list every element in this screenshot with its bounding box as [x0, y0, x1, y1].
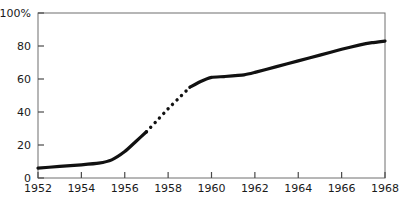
y-axis-tick-label: 40 — [17, 106, 31, 119]
x-axis-tick-label: 1960 — [198, 182, 226, 195]
x-axis-tick-labels: 195219541956195819601962196419661968 — [24, 182, 399, 195]
y-axis-tick-labels: 020406080100% — [0, 7, 31, 185]
x-axis-tick-label: 1962 — [241, 182, 269, 195]
x-axis-tick-label: 1958 — [154, 182, 182, 195]
x-axis-tick-label: 1954 — [67, 182, 95, 195]
chart-figure: 020406080100% 19521954195619581960196219… — [0, 0, 406, 213]
x-axis-tick-label: 1952 — [24, 182, 52, 195]
y-axis-tick-label: 60 — [17, 73, 31, 86]
x-axis-tick-label: 1956 — [111, 182, 139, 195]
y-axis-tick-label: 20 — [17, 139, 31, 152]
y-axis-tick-label: 80 — [17, 40, 31, 53]
y-axis-tick-label: 100% — [0, 7, 31, 20]
x-axis-tick-label: 1966 — [328, 182, 356, 195]
plot-background — [38, 13, 385, 178]
x-axis-tick-label: 1964 — [284, 182, 312, 195]
x-axis-tick-label: 1968 — [371, 182, 399, 195]
line-chart: 020406080100% 19521954195619581960196219… — [0, 0, 406, 213]
